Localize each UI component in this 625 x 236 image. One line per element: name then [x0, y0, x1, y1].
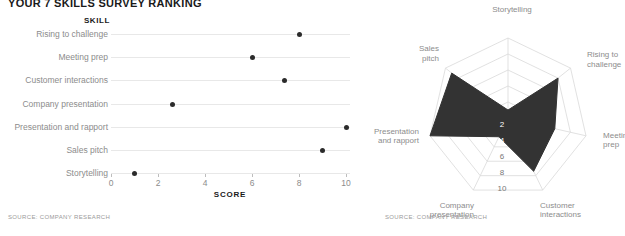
dot-plot-point[interactable] — [170, 102, 175, 107]
dot-row-gridline — [111, 173, 350, 174]
skill-column-header: SKILL — [60, 16, 110, 25]
dot-row-gridline — [111, 104, 350, 105]
infographic-root: YOUR 7 SKILLS SURVEY RANKING SKILL Risin… — [0, 0, 625, 236]
dot-plot-point[interactable] — [132, 171, 137, 176]
radar-radial-tick-label: 4 — [494, 136, 510, 145]
dot-row-label: Rising to challenge — [0, 29, 108, 39]
radar-chart-panel: StorytellingRising to challengeMeeting p… — [380, 0, 625, 236]
x-axis-tick-label: 4 — [195, 178, 215, 188]
source-caption-left: SOURCE: COMPANY RESEARCH — [8, 214, 110, 220]
x-axis-tick — [111, 174, 112, 177]
source-caption-right: SOURCE: COMPANY RESEARCH — [385, 214, 487, 220]
x-axis-tick-label: 10 — [336, 178, 356, 188]
radar-axis-label: Rising to challenge — [587, 50, 625, 69]
dot-plot-point[interactable] — [344, 125, 349, 130]
dot-plot-point[interactable] — [250, 55, 255, 60]
x-axis-tick-label: 8 — [289, 178, 309, 188]
radar-axis-label: Presentation and rapport — [357, 127, 419, 146]
dot-plot-point[interactable] — [282, 78, 287, 83]
radar-radial-tick-label: 8 — [494, 168, 510, 177]
dot-plot-point[interactable] — [320, 148, 325, 153]
radar-axis-label: Sales pitch — [395, 44, 439, 63]
dot-row-gridline — [111, 34, 350, 35]
x-axis-tick-label: 2 — [148, 178, 168, 188]
radar-radial-tick-label: 10 — [494, 184, 510, 193]
radar-radial-tick-label: 6 — [494, 152, 510, 161]
radar-axis-label: Customer interactions — [540, 201, 596, 220]
x-axis-tick-label: 0 — [101, 178, 121, 188]
x-axis-tick — [205, 174, 206, 177]
dot-row-gridline — [111, 150, 350, 151]
radar-radial-tick-label: 2 — [494, 120, 510, 129]
dot-row-label: Storytelling — [0, 168, 108, 178]
score-axis-title: SCORE — [175, 190, 285, 199]
dot-row-gridline — [111, 80, 350, 81]
x-axis-tick — [158, 174, 159, 177]
radar-axis-label: Meeting prep — [603, 131, 625, 150]
x-axis-tick — [299, 174, 300, 177]
dot-row-gridline — [111, 127, 350, 128]
x-axis-tick — [346, 174, 347, 177]
dot-plot-panel: SKILL Rising to challengeMeeting prepCus… — [0, 0, 380, 236]
x-axis-tick-label: 6 — [242, 178, 262, 188]
dot-row-gridline — [111, 57, 350, 58]
x-axis-tick — [252, 174, 253, 177]
dot-plot-point[interactable] — [297, 32, 302, 37]
dot-row-label: Meeting prep — [0, 52, 108, 62]
dot-row-label: Company presentation — [0, 99, 108, 109]
radar-axis-label: Storytelling — [482, 5, 542, 15]
radar-chart-svg — [380, 0, 625, 210]
dot-row-label: Customer interactions — [0, 75, 108, 85]
dot-row-label: Sales pitch — [0, 145, 108, 155]
dot-row-label: Presentation and rapport — [0, 122, 108, 132]
